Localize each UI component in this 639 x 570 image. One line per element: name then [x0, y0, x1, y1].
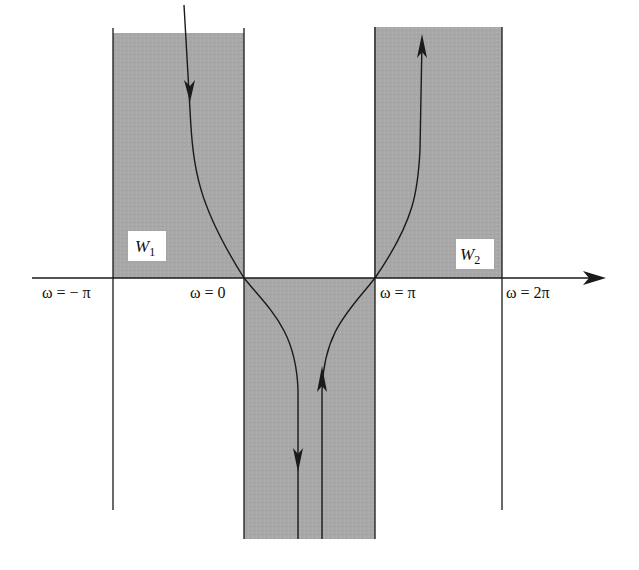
tick-label-minus-pi: ω = − π [42, 284, 91, 301]
region-lower-strip [244, 278, 375, 539]
contour-diagram: W1 W2 ω = − π ω = 0 ω = π ω = 2π [0, 0, 639, 570]
tick-label-pi: ω = π [380, 284, 416, 301]
tick-label-zero: ω = 0 [190, 284, 226, 301]
tick-label-two-pi: ω = 2π [506, 284, 550, 301]
